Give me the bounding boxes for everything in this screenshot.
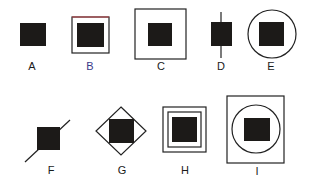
option-d: D [211,12,232,72]
option-label: A [28,60,36,72]
black-square [211,22,232,46]
option-a: A [20,23,46,72]
option-label: B [86,60,93,72]
black-square [20,23,46,46]
option-c: C [135,9,186,72]
black-square [77,23,104,47]
option-label: F [48,164,55,176]
figure-canvas: A B C D E F G H [0,0,311,187]
black-square [172,117,197,142]
black-square [244,118,270,141]
option-h: H [163,107,206,176]
option-e: E [248,10,296,72]
option-label: I [255,165,258,177]
option-label: G [118,164,127,176]
black-square [148,23,172,46]
option-label: D [217,60,225,72]
option-f: F [25,120,70,176]
option-g: G [96,107,146,176]
black-square [109,119,134,143]
black-square [37,127,60,150]
option-b: B [72,17,109,72]
black-square [259,22,284,46]
option-i: I [227,96,284,177]
option-label: C [157,60,165,72]
option-label: E [267,60,274,72]
option-label: H [181,164,189,176]
